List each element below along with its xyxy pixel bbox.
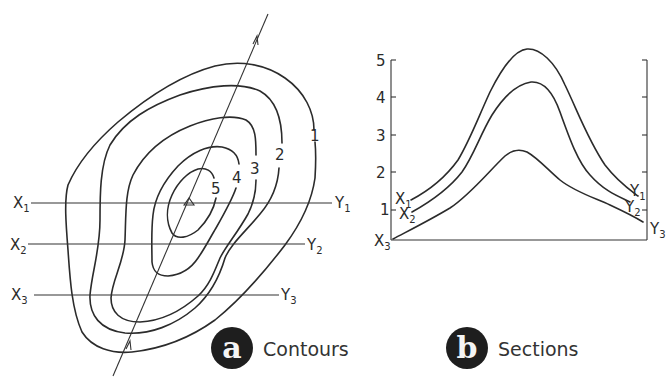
y-tick-1: 1 (380, 201, 390, 219)
section-curve-3 (393, 150, 643, 239)
panel-a-badge: a (211, 327, 253, 369)
svg-text:a: a (222, 330, 241, 365)
section-curve-2 (412, 82, 630, 212)
y-tick-3: 3 (376, 127, 386, 145)
section-label-y3: Y3 (280, 286, 297, 306)
panel-b-badge: b (446, 327, 488, 369)
section-label-y2: Y2 (306, 236, 323, 256)
arrow-up-icon-2 (126, 341, 131, 350)
contour-2 (90, 86, 282, 334)
svg-text:b: b (457, 330, 478, 365)
panel-b-caption: Sections (498, 338, 579, 360)
contour-label-4: 4 (232, 169, 242, 187)
contour-label-2: 2 (275, 146, 285, 164)
figure: 1 2 3 4 5 X1 Y1 X2 Y2 X3 Y3 a Contours (0, 0, 670, 383)
section-label-x1: X1 (13, 194, 30, 214)
section-label-y1: Y1 (334, 194, 351, 214)
curve-label-x2: X2 (399, 205, 416, 225)
right-ticks (642, 60, 647, 210)
left-ticks (391, 60, 396, 210)
y-tick-5: 5 (376, 52, 386, 70)
panel-a-caption: Contours (263, 338, 349, 360)
y-tick-2: 2 (376, 164, 386, 182)
y-tick-4: 4 (376, 89, 386, 107)
contour-label-5: 5 (211, 180, 221, 198)
contour-label-3: 3 (250, 160, 260, 178)
contour-1 (66, 63, 316, 352)
section-label-x3: X3 (11, 286, 28, 306)
sections-chart: 1 2 3 4 5 X1 X2 X3 Y1 Y2 Y3 (374, 49, 666, 252)
curve-label-x3: X3 (374, 232, 391, 252)
contour-map: 1 2 3 4 5 X1 Y1 X2 Y2 X3 Y3 (10, 14, 351, 376)
curve-label-y2: Y2 (624, 198, 641, 218)
profile-axis-line (113, 14, 268, 376)
contour-3 (111, 117, 256, 322)
section-label-x2: X2 (10, 236, 27, 256)
contour-label-1: 1 (310, 127, 320, 145)
curve-label-y3: Y3 (649, 220, 666, 240)
section-curve-1 (411, 49, 638, 200)
